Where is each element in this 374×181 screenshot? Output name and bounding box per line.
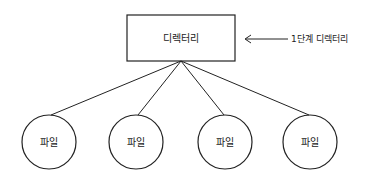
edge-4: [181, 61, 309, 115]
annotation-label: 1단계 디렉터리: [291, 33, 348, 44]
diagram-svg: 디렉터리 1단계 디렉터리 파일 파일 파일 파일: [0, 0, 374, 181]
root-directory-label: 디렉터리: [163, 33, 199, 44]
directory-tree-diagram: 디렉터리 1단계 디렉터리 파일 파일 파일 파일: [0, 0, 374, 181]
file-node-2: 파일: [109, 115, 163, 169]
annotation-arrow-icon: [245, 35, 288, 43]
file-node-3: 파일: [198, 115, 252, 169]
file-node-4: 파일: [283, 115, 337, 169]
file-node-label: 파일: [301, 137, 319, 148]
edge-2: [138, 61, 181, 115]
tree-edges: [51, 61, 309, 115]
file-node-1: 파일: [22, 115, 76, 169]
edge-1: [51, 61, 181, 115]
file-node-label: 파일: [127, 137, 145, 148]
file-node-label: 파일: [40, 137, 58, 148]
file-node-label: 파일: [216, 137, 234, 148]
edge-3: [181, 61, 224, 115]
